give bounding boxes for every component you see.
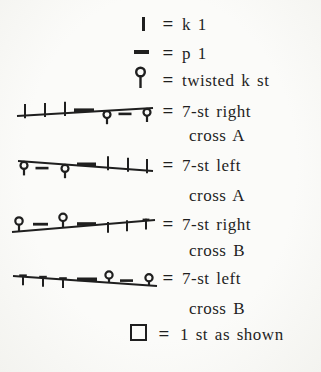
legend-label-k1: k 1 — [182, 16, 207, 34]
legend-label-twisted: twisted k st — [182, 72, 269, 90]
legend-label-left-cross-a-line2: cross A — [189, 187, 245, 205]
knit-stitch-icon — [142, 17, 145, 31]
legend-label-left-cross-b-line2: cross B — [189, 300, 245, 318]
cable-right-cross-b-icon — [4, 207, 162, 243]
purl-stitch-icon — [134, 50, 149, 54]
equals-sign: = — [157, 215, 179, 233]
cable-right-cross-a-icon — [4, 96, 162, 132]
equals-sign: = — [153, 325, 175, 343]
legend-label-as-shown: 1 st as shown — [180, 326, 284, 344]
equals-sign: = — [157, 102, 179, 120]
equals-sign: = — [157, 71, 179, 89]
legend-label-p1: p 1 — [182, 45, 207, 63]
legend-label-right-cross-b: 7-st right — [182, 216, 251, 234]
equals-sign: = — [157, 15, 179, 33]
cable-left-cross-a-icon — [4, 150, 162, 186]
equals-sign: = — [157, 44, 179, 62]
twisted-knit-icon — [133, 65, 148, 90]
equals-sign: = — [157, 269, 179, 287]
equals-sign: = — [157, 156, 179, 174]
knitting-legend-page: = k 1 = p 1 = twisted k st = 7-st right … — [0, 0, 321, 372]
legend-label-left-cross-b: 7-st left — [182, 270, 241, 288]
stitch-box-icon — [130, 324, 147, 341]
legend-label-right-cross-a-line2: cross A — [189, 127, 245, 145]
legend-label-right-cross-a: 7-st right — [182, 103, 251, 121]
legend-label-right-cross-b-line2: cross B — [189, 242, 245, 260]
legend-label-left-cross-a: 7-st left — [182, 157, 241, 175]
cable-left-cross-b-icon — [4, 262, 162, 298]
